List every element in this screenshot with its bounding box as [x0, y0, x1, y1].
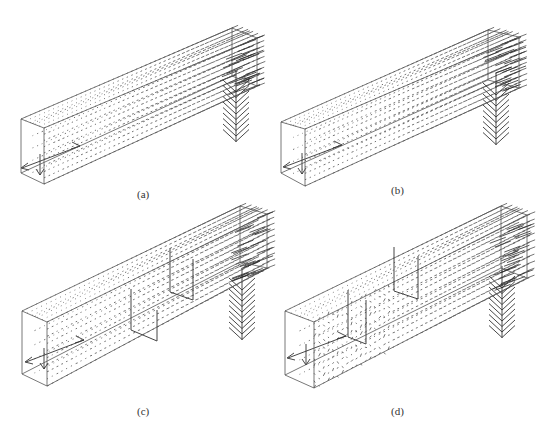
inlet-vectors	[283, 141, 342, 174]
panel-b	[281, 27, 527, 186]
duct-frame	[285, 206, 527, 388]
vector-field-figure: (a) (b) (c) (d)	[0, 0, 548, 437]
panel-c	[22, 203, 275, 386]
vector-field	[21, 25, 265, 184]
inlet-vectors	[287, 332, 346, 365]
inlet-vectors	[21, 142, 80, 175]
panel-label-d: (d)	[391, 405, 404, 417]
vector-field	[22, 203, 275, 386]
baffle-1	[131, 289, 157, 341]
panel-label-c: (c)	[137, 405, 149, 417]
panel-label-b: (b)	[391, 184, 404, 196]
panel-d	[285, 203, 535, 388]
vector-field	[285, 203, 535, 388]
baffle-2	[394, 247, 418, 299]
duct-frame	[21, 28, 257, 184]
panel-label-a: (a)	[137, 188, 149, 200]
panel-a	[21, 25, 265, 184]
inlet-vectors	[25, 336, 84, 369]
figure-canvas	[0, 0, 548, 437]
